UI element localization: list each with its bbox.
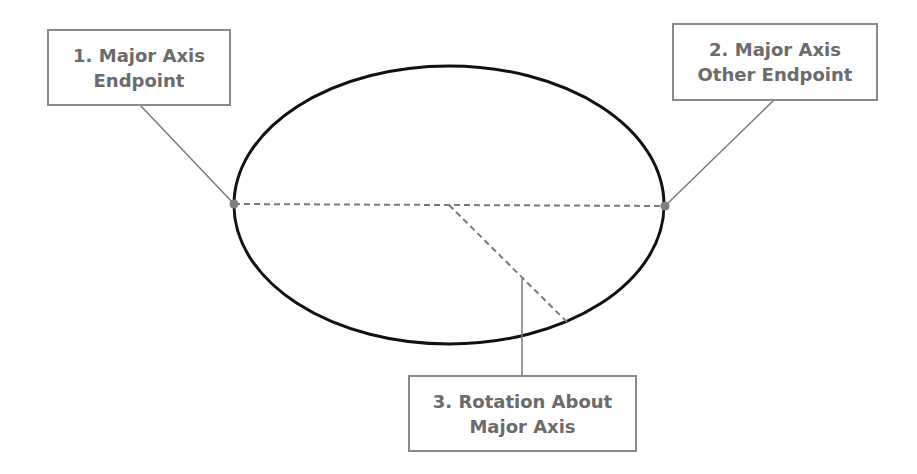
leader-line-1 [140,105,234,204]
leader-line-2 [665,100,774,206]
rotation-dashed-line [449,205,567,322]
label-2-line-1: 2. Major Axis [709,37,841,62]
label-3-line-2: Major Axis [469,414,575,439]
label-1-line-2: Endpoint [94,68,185,93]
label-rotation-about-major-axis: 3. Rotation About Major Axis [408,375,637,452]
label-major-axis-other-endpoint: 2. Major Axis Other Endpoint [672,23,878,101]
label-2-line-2: Other Endpoint [698,62,853,87]
endpoint-2-marker [661,202,670,211]
endpoint-1-marker [230,200,239,209]
label-major-axis-endpoint: 1. Major Axis Endpoint [47,29,231,106]
label-3-line-1: 3. Rotation About [433,389,612,414]
label-1-line-1: 1. Major Axis [73,43,205,68]
